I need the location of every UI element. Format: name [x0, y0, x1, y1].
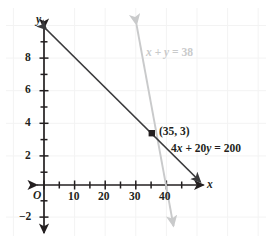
gray-eq-value: 38: [181, 46, 193, 58]
plot-canvas: [0, 0, 271, 241]
y-tick-label-8: 8: [25, 52, 31, 64]
x-tick-label-30: 30: [129, 191, 141, 203]
origin-label: O: [33, 190, 41, 202]
gray-eq-op: +: [152, 46, 164, 58]
y-tick-label-4: 4: [25, 117, 31, 129]
coordinate-graph-figure: y x O 8 6 4 2 −2 10 20 30 40 x + y = 38 …: [0, 0, 271, 241]
y-tick-label-6: 6: [25, 84, 31, 96]
x-axis-label: x: [207, 179, 213, 191]
dark-eq-equals: =: [211, 142, 223, 154]
y-axis-label: y: [36, 14, 41, 26]
intersection-point-marker: [149, 130, 155, 136]
gray-eq-equals: =: [169, 46, 181, 58]
y-tick-label-minus-2: −2: [19, 211, 31, 223]
dark-eq-value: 200: [224, 142, 241, 154]
x-tick-label-20: 20: [98, 191, 110, 203]
dark-eq-op: +: [183, 142, 195, 154]
x-tick-label-40: 40: [159, 191, 171, 203]
equation-label-4x-plus-20y: 4x + 20y = 200: [171, 143, 241, 155]
x-tick-label-10: 10: [68, 191, 80, 203]
y-tick-label-2: 2: [25, 150, 31, 162]
equation-label-x-plus-y: x + y = 38: [146, 47, 193, 59]
x-axis: [37, 181, 204, 190]
dark-eq-coef-20: 20: [195, 142, 207, 154]
y-axis: [40, 28, 49, 233]
intersection-point-label: (35, 3): [159, 126, 190, 138]
